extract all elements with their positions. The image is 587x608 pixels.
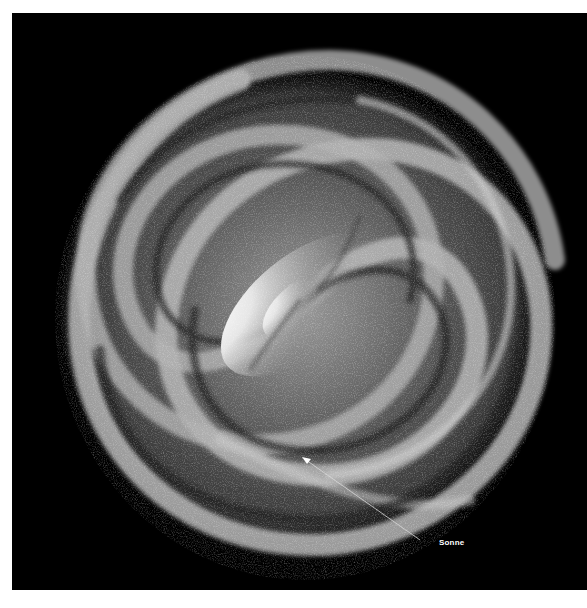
sun-label: Sonne: [439, 538, 464, 547]
spiral-galaxy: [12, 13, 587, 590]
galaxy-image-frame: Sonne: [12, 13, 587, 590]
